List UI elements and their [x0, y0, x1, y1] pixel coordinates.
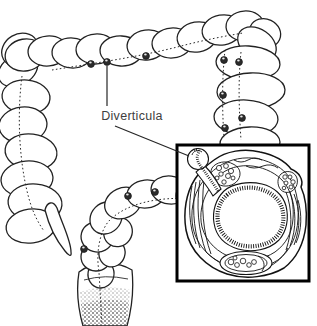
diverticulum: [152, 189, 159, 196]
diverticula-leader-line: [115, 126, 189, 156]
diverticulum: [104, 59, 111, 66]
medical-illustration-colon-diverticula: Diverticula: [0, 0, 317, 326]
diverticulum: [88, 61, 95, 68]
mesenteric-fat-pod: [220, 252, 272, 275]
rectum-stipple-dense: [81, 300, 129, 326]
diverticulum: [221, 57, 228, 64]
diverticulum: [220, 92, 227, 99]
mucosa-ring: [213, 183, 287, 251]
submucosa-outline: [213, 183, 287, 251]
diverticulum: [143, 53, 150, 60]
colon-diverticula-figure: Diverticula: [0, 0, 317, 326]
diverticula-label: Diverticula: [101, 109, 163, 123]
diverticulum: [81, 246, 88, 253]
colon-wall-cross-section: [185, 149, 306, 278]
diverticulum: [239, 115, 246, 122]
diverticulum: [125, 193, 132, 200]
diverticulum: [236, 59, 243, 66]
diverticulum: [222, 125, 229, 132]
